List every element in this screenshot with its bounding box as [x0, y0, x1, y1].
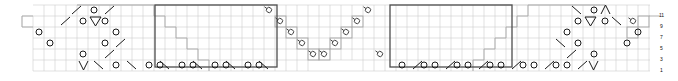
- row-number-5: 5: [656, 43, 667, 54]
- row-number-column: 11 9 7 5 3 1: [655, 4, 668, 76]
- row-number-7: 7: [656, 32, 667, 43]
- row-number-3: 3: [656, 54, 667, 65]
- repeat-box-left: [155, 5, 277, 67]
- row-number-1: 1: [656, 65, 667, 76]
- row-number-9: 9: [656, 21, 667, 32]
- row-number-11: 11: [656, 10, 667, 21]
- knitting-chart: 11 9 7 5 3 1: [0, 0, 678, 81]
- repeat-boxes: [155, 5, 512, 67]
- chart-canvas: [0, 0, 678, 81]
